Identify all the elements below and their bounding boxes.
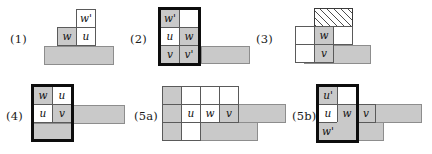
panel-5a: (5a) u: [130, 77, 290, 154]
panel-5b-cell-w-label: w: [343, 108, 352, 119]
panel-5b-lower-right-slab: [356, 122, 384, 141]
panel-5a-cell-w: w: [200, 104, 220, 123]
panel-4-cell-v-label: v: [59, 108, 65, 119]
panel-2-cell-w-prime-label: w': [164, 13, 176, 24]
panel-1-cell-w-prime: w': [76, 9, 96, 28]
panel-5b-cell-u-label: u: [325, 108, 332, 119]
panel-4-box-base-slab: [33, 123, 72, 140]
panel-2-cell-w-label: w: [185, 31, 194, 42]
panel-2-cell-u: u: [160, 27, 180, 46]
panel-4-cell-w-label: w: [39, 90, 48, 101]
figure-plate: (1) w' w u (2) w': [0, 0, 432, 154]
panel-3-cell-right-white: [333, 26, 353, 45]
panel-1-label: (1): [10, 32, 27, 46]
panel-4-cell-u-top-label: u: [59, 90, 66, 101]
panel-4-cell-u-bottom-label: u: [40, 108, 47, 119]
panel-1-cell-w-prime-label: w': [80, 13, 92, 24]
panel-3-cell-w-label: w: [320, 30, 329, 41]
panel-3-cell-v-label: v: [321, 48, 327, 59]
panel-4: (4) w u u v: [0, 77, 130, 154]
panel-5a-cell-top-far-white: [219, 86, 239, 105]
panel-3-cell-left-upper: [295, 26, 315, 45]
panel-5a-cell-mid-left-gray: [162, 104, 182, 123]
panel-4-cell-u-top: u: [52, 86, 72, 105]
panel-5b-cell-v-label: v: [363, 108, 369, 119]
panel-5b-cell-w-prime-label: w': [322, 126, 334, 137]
panel-5a-cell-u: u: [181, 104, 201, 123]
panel-2-label: (2): [130, 32, 147, 46]
panel-5b-cell-empty: [337, 86, 357, 105]
panel-5a-cell-top-left-gray: [162, 86, 182, 105]
panel-2-cell-v-prime: v': [179, 45, 199, 64]
panel-5b-cell-bottom-right-gray: [337, 122, 357, 141]
panel-5a-cell-v: v: [219, 104, 239, 123]
panel-1-cell-u: u: [76, 27, 96, 46]
panel-5a-cell-top-right-white: [200, 86, 220, 105]
panel-1-cell-w: w: [57, 27, 77, 46]
panel-5a-right-bar-slab: [238, 104, 286, 123]
panel-5b-label: (5b): [292, 109, 316, 123]
panel-5a-bottom-slab: [200, 122, 258, 141]
panel-1-base-slab: [44, 46, 114, 65]
panel-5b: (5b) u' u w v: [290, 77, 432, 154]
panel-5b-right-bar-slab: [375, 104, 422, 123]
panel-5b-cell-w: w: [337, 104, 357, 123]
panel-4-label: (4): [6, 109, 23, 123]
panel-2-cell-v-prime-label: v': [185, 49, 194, 60]
panel-2-cell-empty: [179, 9, 199, 28]
panel-3-label: (3): [256, 32, 273, 46]
panel-5b-cell-v: v: [356, 104, 376, 123]
panel-3-cell-left-lower: [295, 44, 315, 63]
panel-5b-cell-u-prime: u': [318, 86, 338, 105]
panel-2-side-slab: [201, 46, 250, 64]
panel-1: (1) w' w u: [0, 0, 122, 77]
panel-2-cell-v: v: [160, 45, 180, 64]
panel-5b-cell-u-prime-label: u': [323, 90, 333, 101]
panel-2-cell-w: w: [179, 27, 199, 46]
panel-3-cell-v: v: [314, 44, 334, 63]
panel-2-cell-w-prime: w': [160, 9, 180, 28]
panel-2: (2) w' u w v v': [122, 0, 250, 77]
panel-5a-label: (5a): [134, 109, 158, 123]
panel-4-cell-v: v: [52, 104, 72, 123]
panel-4-cell-u-bottom: u: [33, 104, 53, 123]
panel-2-cell-u-label: u: [167, 31, 174, 42]
panel-1-cell-u-label: u: [83, 31, 90, 42]
panel-1-cell-w-label: w: [63, 31, 72, 42]
panel-3-cell-hatched: [314, 8, 353, 27]
panel-4-right-bar-slab: [71, 105, 125, 124]
panel-2-cell-v-label: v: [167, 49, 173, 60]
panel-5a-cell-bot-mid-white: [181, 122, 201, 141]
panel-4-cell-w: w: [33, 86, 53, 105]
panel-3-cell-w: w: [314, 26, 334, 45]
panel-5a-cell-top-mid-white: [181, 86, 201, 105]
panel-5a-cell-u-label: u: [188, 108, 195, 119]
panel-5b-cell-u: u: [318, 104, 338, 123]
panel-5a-cell-v-label: v: [226, 108, 232, 119]
panel-5a-cell-bot-left-gray: [162, 122, 182, 141]
panel-5a-cell-w-label: w: [206, 108, 215, 119]
panel-3: (3) w v: [250, 0, 432, 77]
panel-5b-cell-w-prime: w': [318, 122, 338, 141]
